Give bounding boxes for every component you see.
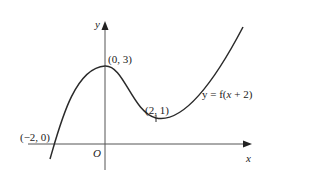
x-axis-arrow-icon — [243, 141, 252, 148]
origin-label: O — [93, 147, 101, 159]
curve-label: y = f(x + 2) — [202, 88, 253, 101]
root-point-label: (−2, 0) — [20, 131, 50, 144]
x-axis-label: x — [245, 152, 251, 164]
max-point-label: (0, 3) — [108, 53, 132, 66]
graph: y x O (0, 3) (2, 1) (−2, 0) y = f(x + 2) — [0, 0, 309, 179]
y-axis-arrow-icon — [102, 21, 109, 30]
y-axis-label: y — [94, 18, 100, 30]
min-point-label: (2, 1) — [145, 104, 169, 117]
